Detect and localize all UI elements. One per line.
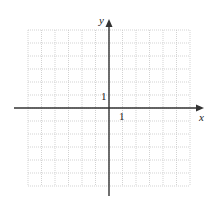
y-axis-label: y — [98, 14, 104, 26]
y-tick-label-1: 1 — [101, 90, 107, 102]
coordinate-plane: x y 1 1 — [0, 0, 217, 202]
y-axis-arrow-icon — [106, 19, 113, 27]
x-axis-label: x — [198, 111, 204, 123]
x-tick-label-1: 1 — [119, 110, 125, 122]
